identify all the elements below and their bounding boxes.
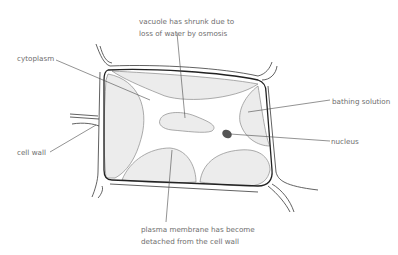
label-vacuole-line1: vacuole has shrunk due to — [139, 17, 234, 26]
label-cell-wall: cell wall — [17, 148, 46, 157]
label-membrane-line2: detached from the cell wall — [141, 237, 239, 246]
label-membrane-line1: plasma membrane has become — [141, 225, 255, 234]
label-vacuole-line2: loss of water by osmosis — [139, 29, 228, 38]
label-nucleus: nucleus — [331, 137, 359, 146]
leader-nucleus — [230, 134, 330, 141]
leader-cell-wall — [50, 125, 96, 152]
label-cytoplasm: cytoplasm — [17, 54, 54, 63]
vacuole — [160, 113, 215, 133]
region-right — [240, 86, 270, 146]
label-bathing-solution: bathing solution — [332, 97, 390, 106]
region-bottom-right — [200, 150, 270, 186]
plasmolysed-cell-diagram: vacuole has shrunk due to loss of water … — [0, 0, 398, 255]
